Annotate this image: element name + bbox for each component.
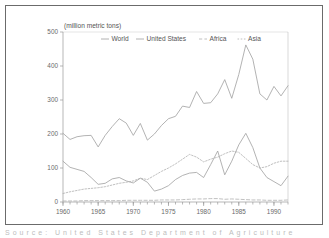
y-tick-label: 0 <box>54 198 58 205</box>
x-tick-label: 1990 <box>267 208 282 215</box>
x-tick-labels: 1960196519701975198019851990 <box>56 208 282 215</box>
caption-text: Source: United States Department of Agri… <box>5 228 323 237</box>
x-tick-label: 1980 <box>197 208 212 215</box>
x-tick-label: 1960 <box>56 208 71 215</box>
y-tick-label: 400 <box>47 62 58 69</box>
chart-series <box>63 45 288 201</box>
legend-label-africa: Africa <box>210 35 227 42</box>
x-tick-label: 1975 <box>161 208 176 215</box>
clipped-caption: Source: United States Department of Agri… <box>5 228 323 237</box>
y-tick-label: 300 <box>47 96 58 103</box>
line-chart: (million metric tons) 0100200300400500 1… <box>6 6 322 224</box>
chart-legend: WorldUnited StatesAfricaAsia <box>101 35 261 42</box>
series-line-united-states <box>63 133 288 191</box>
legend-label-asia: Asia <box>248 35 261 42</box>
figure-panel: (million metric tons) 0100200300400500 1… <box>5 5 323 225</box>
y-tick-label: 500 <box>47 28 58 35</box>
x-tick-label: 1970 <box>126 208 141 215</box>
legend-label-world: World <box>112 35 129 42</box>
series-line-africa <box>63 199 288 201</box>
y-tick-label: 200 <box>47 130 58 137</box>
y-axis-unit-text: (million metric tons) <box>64 22 121 30</box>
legend-label-united-states: United States <box>147 35 187 42</box>
y-axis-unit-label: (million metric tons) <box>64 22 121 30</box>
y-tick-label: 100 <box>47 164 58 171</box>
x-tick-label: 1965 <box>91 208 106 215</box>
series-line-world <box>63 45 288 147</box>
y-tick-labels: 0100200300400500 <box>47 28 58 205</box>
chart-axes <box>63 32 288 202</box>
chart-ticks <box>60 32 288 206</box>
x-tick-label: 1985 <box>232 208 247 215</box>
series-line-asia <box>63 151 288 194</box>
